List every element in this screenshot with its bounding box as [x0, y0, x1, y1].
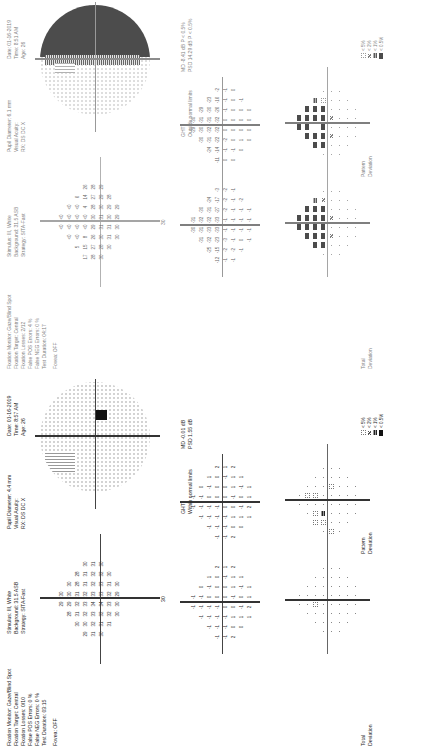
pattern-deviation-value: 0	[222, 115, 230, 125]
total-deviation-value: -1	[246, 205, 254, 215]
probability-symbol	[327, 627, 335, 636]
legend-symbol-icon	[373, 430, 378, 436]
legend-label: < 1%	[373, 418, 378, 428]
background: Background: 31.5 ASB	[13, 207, 20, 257]
total-deviation-value: -25	[206, 245, 214, 255]
probability-symbol	[311, 518, 319, 527]
total-deviation-value: 1	[222, 562, 230, 572]
pattern-deviation-value: -1	[222, 512, 230, 522]
pattern-deviation-label: Pattern Deviation	[360, 532, 373, 554]
probability-symbol	[319, 482, 327, 491]
fixation-losses: Fixation Losses: 0/10	[20, 697, 27, 746]
patient-age: Age: 26	[20, 418, 27, 436]
probability-symbol	[311, 232, 319, 241]
total-deviation-value: -1	[214, 612, 222, 622]
md-value: MD -0.01 dB	[180, 420, 187, 449]
probability-symbol	[327, 518, 335, 527]
probability-symbol	[327, 573, 335, 582]
total-deviation-value: -1	[198, 602, 206, 612]
greyscale-x-axis	[95, 2, 96, 132]
pattern-deviation-value: -1	[238, 502, 246, 512]
total-deviation-value: -32	[198, 215, 206, 225]
threshold-value: 31	[98, 619, 106, 629]
threshold-value: <0	[82, 222, 90, 232]
total-deviation-value: -1	[238, 215, 246, 225]
legend-item: < 0.5%	[378, 414, 384, 436]
total-deviation-value: -1	[222, 255, 230, 265]
probability-symbol	[335, 132, 343, 141]
threshold-value: 27	[90, 242, 98, 252]
probability-symbol	[343, 509, 351, 518]
legend-item: < 5%	[360, 414, 366, 436]
total-deviation-value: -15	[214, 245, 222, 255]
pattern-deviation-value: 0	[230, 135, 238, 145]
probability-symbol	[311, 600, 319, 609]
test-time: Time: 8:51 AM	[13, 27, 20, 59]
total-deviation-value: 1	[230, 612, 238, 622]
legend-label: < 0.5%	[379, 414, 384, 428]
probability-symbol	[351, 600, 359, 609]
pattern-deviation-value: 0	[222, 482, 230, 492]
fixation-target: Fixation Target: Central	[13, 692, 20, 746]
probability-symbol	[303, 105, 311, 114]
greyscale-y-axis	[35, 59, 160, 61]
threshold-value: 28	[90, 252, 98, 262]
fixation-monitor: Fixation Monitor: Gaze/Blind Spot	[6, 295, 13, 369]
threshold-value: 29	[98, 192, 106, 202]
probability-symbol	[311, 196, 319, 205]
probability-symbol	[311, 473, 319, 482]
total-deviation-value: -33	[206, 225, 214, 235]
threshold-value: 31	[98, 212, 106, 222]
pattern-deviation-value: 1	[246, 512, 254, 522]
probability-symbol	[303, 205, 311, 214]
legend-symbol-icon	[367, 430, 372, 436]
probability-symbol	[335, 141, 343, 150]
pattern-deviation-value: -1	[222, 85, 230, 95]
total-deviation-value: -1	[238, 205, 246, 215]
pattern-deviation-value: 0	[246, 105, 254, 115]
total-deviation-value: 0	[230, 622, 238, 632]
total-deviation-value: 1	[246, 612, 254, 622]
threshold-value: 30	[82, 619, 90, 629]
threshold-value: 29	[58, 599, 66, 609]
pattern-deviation-value: 0	[230, 502, 238, 512]
pattern-deviation-value: -1	[214, 502, 222, 512]
probability-symbol	[327, 132, 335, 141]
probability-symbol	[335, 609, 343, 618]
legend-label: < 2%	[367, 41, 372, 51]
total-deviation-value: -1	[230, 225, 238, 235]
greyscale-x-axis	[95, 379, 96, 509]
total-deviation-value: 1	[206, 572, 214, 582]
threshold-value: 30	[106, 212, 114, 222]
probability-symbol	[351, 223, 359, 232]
probability-symbol	[319, 500, 327, 509]
probability-symbol	[319, 150, 327, 159]
probability-symbol	[319, 564, 327, 573]
total-deviation-value: -1	[222, 612, 230, 622]
false-neg-errors: False NEG Errors: 0 %	[34, 318, 41, 369]
threshold-value: 30	[114, 599, 122, 609]
total-deviation-value: -1	[214, 622, 222, 632]
total-deviation-value: 1	[230, 582, 238, 592]
total-deviation-value: -1	[198, 612, 206, 622]
threshold-value: 30	[114, 222, 122, 232]
pattern-deviation-value: -1	[230, 492, 238, 502]
total-deviation-value: -1	[230, 235, 238, 245]
total-deviation-value: -1	[222, 215, 230, 225]
pattern-deviation-value: 0	[198, 482, 206, 492]
pattern-deviation-value: -1	[206, 482, 214, 492]
probability-symbol	[327, 96, 335, 105]
pattern-deviation-value: -31	[206, 135, 214, 145]
td-y-axis	[180, 225, 260, 227]
probability-symbol	[319, 232, 327, 241]
probability-symbol	[351, 123, 359, 132]
threshold-value: 28	[90, 182, 98, 192]
threshold-value: 5	[74, 242, 82, 252]
pattern-deviation-value: -1	[214, 522, 222, 532]
pattern-deviation-value: 2	[230, 532, 238, 542]
probability-symbol	[327, 187, 335, 196]
tp-y-axis	[285, 223, 370, 225]
probability-legend: < 5%< 2%< 1%< 0.5%	[360, 414, 384, 436]
probability-symbol	[327, 564, 335, 573]
probability-symbol	[335, 600, 343, 609]
